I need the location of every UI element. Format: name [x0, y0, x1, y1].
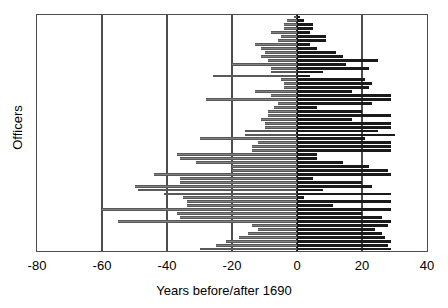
- x-tick-label--60: -60: [93, 258, 112, 273]
- bar-row: [37, 16, 427, 19]
- bar-row: [37, 177, 427, 180]
- x-axis-title: Years before/after 1690: [0, 283, 448, 298]
- bar-row: [37, 193, 427, 196]
- bar-segment-after: [297, 134, 395, 137]
- bar-segment-after: [297, 141, 391, 144]
- bar-segment-before: [271, 67, 297, 70]
- bar-segment-after: [297, 236, 385, 239]
- bar-segment-after: [297, 200, 391, 203]
- bar-segment-after: [297, 204, 333, 207]
- bar-segment-before: [271, 71, 297, 74]
- bar-segment-before: [268, 114, 297, 117]
- bar-row: [37, 165, 427, 168]
- bar-series-container: [37, 15, 427, 251]
- bar-segment-before: [213, 75, 298, 78]
- bar-segment-after: [297, 78, 365, 81]
- bar-row: [37, 216, 427, 219]
- bar-row: [37, 43, 427, 46]
- bar-segment-before: [232, 169, 297, 172]
- bar-row: [37, 55, 427, 58]
- bar-segment-after: [297, 240, 391, 243]
- bar-row: [37, 169, 427, 172]
- bar-row: [37, 39, 427, 42]
- bar-segment-after: [297, 16, 300, 19]
- bar-segment-after: [297, 35, 326, 38]
- bar-segment-before: [281, 35, 297, 38]
- bar-segment-before: [252, 224, 298, 227]
- bar-segment-after: [297, 130, 378, 133]
- bar-segment-after: [297, 19, 304, 22]
- x-tick-label-40: 40: [420, 258, 434, 273]
- bar-segment-after: [297, 224, 388, 227]
- bar-segment-after: [297, 67, 369, 70]
- bar-segment-before: [180, 181, 297, 184]
- bar-segment-after: [297, 248, 391, 251]
- bar-row: [37, 122, 427, 125]
- bar-row: [37, 224, 427, 227]
- bar-segment-before: [271, 31, 297, 34]
- bar-segment-after: [297, 63, 346, 66]
- bar-segment-before: [271, 94, 297, 97]
- bar-segment-before: [284, 23, 297, 26]
- bar-row: [37, 63, 427, 66]
- bar-row: [37, 145, 427, 148]
- bar-segment-after: [297, 161, 343, 164]
- bar-segment-before: [284, 27, 297, 30]
- bar-row: [37, 114, 427, 117]
- bar-row: [37, 232, 427, 235]
- bar-row: [37, 208, 427, 211]
- bar-row: [37, 82, 427, 85]
- bar-segment-before: [180, 216, 297, 219]
- bar-row: [37, 185, 427, 188]
- bar-row: [37, 75, 427, 78]
- bar-segment-after: [297, 189, 323, 192]
- x-tick-label-20: 20: [355, 258, 369, 273]
- bar-segment-after: [297, 39, 326, 42]
- bar-segment-before: [200, 137, 298, 140]
- y-axis-title: Officers: [10, 73, 25, 183]
- bar-row: [37, 35, 427, 38]
- bar-row: [37, 189, 427, 192]
- bar-segment-before: [154, 173, 297, 176]
- bar-segment-after: [297, 185, 372, 188]
- bar-segment-after: [297, 153, 317, 156]
- bar-segment-before: [268, 110, 297, 113]
- bar-segment-after: [297, 27, 313, 30]
- bar-segment-before: [232, 165, 297, 168]
- bar-segment-after: [297, 177, 313, 180]
- bar-row: [37, 118, 427, 121]
- plot-area: [36, 14, 428, 252]
- bar-segment-after: [297, 75, 310, 78]
- bar-segment-after: [297, 196, 304, 199]
- bar-row: [37, 212, 427, 215]
- bar-segment-after: [297, 47, 317, 50]
- chart-screenshot: -80-60-40-2002040 Years before/after 169…: [0, 0, 448, 308]
- bar-segment-after: [297, 82, 372, 85]
- bar-segment-before: [261, 118, 297, 121]
- bar-segment-before: [284, 86, 297, 89]
- bar-segment-before: [177, 153, 297, 156]
- bar-segment-after: [297, 145, 391, 148]
- bar-segment-before: [216, 244, 297, 247]
- bar-segment-before: [138, 189, 297, 192]
- bar-segment-before: [255, 43, 297, 46]
- bar-segment-before: [164, 193, 297, 196]
- bar-segment-before: [180, 177, 297, 180]
- bar-segment-before: [287, 19, 297, 22]
- bar-segment-after: [297, 137, 365, 140]
- bar-segment-before: [252, 145, 298, 148]
- bar-segment-after: [297, 216, 382, 219]
- bar-segment-after: [297, 126, 391, 129]
- bar-segment-after: [297, 244, 388, 247]
- bar-segment-after: [297, 98, 391, 101]
- bar-row: [37, 228, 427, 231]
- bar-segment-before: [226, 240, 298, 243]
- bar-segment-after: [297, 51, 336, 54]
- bar-row: [37, 244, 427, 247]
- bar-segment-after: [297, 208, 391, 211]
- bar-segment-before: [102, 208, 297, 211]
- bar-segment-after: [297, 149, 391, 152]
- bar-row: [37, 47, 427, 50]
- bar-row: [37, 126, 427, 129]
- bar-segment-after: [297, 31, 310, 34]
